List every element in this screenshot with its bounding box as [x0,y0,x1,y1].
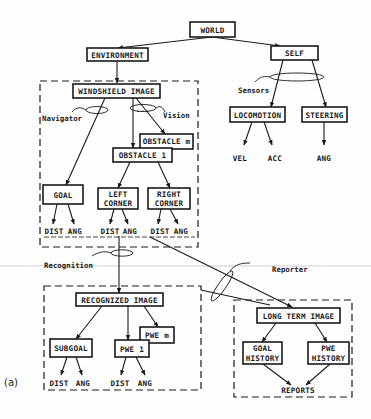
label-navigator: Navigator [42,114,83,123]
node-windshield-image: WINDSHIELD IMAGE [78,87,155,96]
leaf-subgoal-ang: ANG [76,379,91,388]
node-right-corner-line2: CORNER [155,199,184,208]
node-left-corner-line2: CORNER [104,199,133,208]
node-left-corner-line1: LEFT [108,190,127,199]
node-locomotion: LOCOMOTION [234,111,282,120]
leaf-pwe-dist: DIST [110,379,129,388]
leaf-vel: VEL [233,154,248,163]
node-goal-history-line1: GOAL [253,344,272,353]
leaf-left-dist: DIST [100,227,119,236]
leaf-right-dist: DIST [150,227,169,236]
node-environment: ENVIRONMENT [91,51,144,60]
node-steering: STEERING [305,111,343,120]
leaf-acc: ACC [268,154,283,163]
leaf-pwe-ang: ANG [138,379,153,388]
node-pwe-m: PWE m [145,331,169,340]
leaf-reports: REPORTS [281,386,315,395]
node-goal-history-line2: HISTORY [246,354,280,363]
leaf-goal-ang: ANG [68,227,83,236]
figure-label: (a) [4,377,18,388]
node-pwe-history-line1: PWE [321,344,336,353]
node-pwe-1: PWE 1 [120,345,144,354]
leaf-left-ang: ANG [123,227,138,236]
leaf-right-ang: ANG [174,227,189,236]
node-subgoal: SUBGOAL [54,344,88,353]
node-obstacle-1: OBSTACLE 1 [119,151,167,160]
leaf-goal-dist: DIST [44,227,63,236]
node-goal: GOAL [53,191,72,200]
obstacle-ellipsis: ... [136,105,150,114]
node-recognized-image: RECOGNIZED IMAGE [81,296,158,305]
node-obstacle-m: OBSTACLE m [143,137,191,146]
node-right-corner-line1: RIGHT [157,190,181,199]
node-long-term-image: LONG TERM IMAGE [263,312,335,321]
label-reporter: Reporter [272,265,308,274]
label-sensors: Sensors [238,86,269,95]
node-self: SELF [285,49,304,58]
node-pwe-history-line2: HISTORY [312,354,346,363]
label-vision: Vision [163,111,190,120]
label-recognition: Recognition [44,261,93,270]
windshield-group-border [40,81,198,247]
diagram-svg: WORLD ENVIRONMENT SELF WINDSHIELD IMAGE … [0,0,371,419]
leaf-subgoal-dist: DIST [49,379,68,388]
node-world: WORLD [201,26,225,35]
leaf-steering-ang: ANG [317,154,332,163]
tree-diagram: WORLD ENVIRONMENT SELF WINDSHIELD IMAGE … [0,0,371,419]
